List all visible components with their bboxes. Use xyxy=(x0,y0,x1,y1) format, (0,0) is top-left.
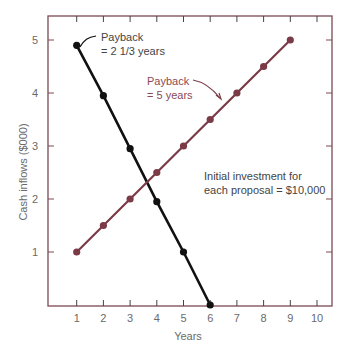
y-tick-label: 3 xyxy=(32,140,38,152)
data-point-red xyxy=(287,36,294,43)
annotation-arrow-black xyxy=(80,36,96,47)
annotation-black-line1: Payback xyxy=(101,31,144,43)
y-axis-label: Cash inflows ($000) xyxy=(17,123,29,220)
x-tick-label: 2 xyxy=(100,312,106,324)
data-point-black xyxy=(180,248,187,255)
payback-chart: 12345678910 12345 Years Cash inflows ($0… xyxy=(0,0,343,354)
annotation-red-line1: Payback xyxy=(147,75,190,87)
note-line2: each proposal = $10,000 xyxy=(204,184,325,196)
x-tick-label: 3 xyxy=(127,312,133,324)
data-point-red xyxy=(180,142,187,149)
x-tick-label: 5 xyxy=(180,312,186,324)
data-point-red xyxy=(260,63,267,70)
x-tick-label: 6 xyxy=(207,312,213,324)
x-tick-label: 4 xyxy=(154,312,160,324)
data-point-black xyxy=(153,198,160,205)
data-point-red xyxy=(73,248,80,255)
annotation-red-line2: = 5 years xyxy=(147,89,193,101)
data-point-red xyxy=(207,116,214,123)
x-tick-label: 9 xyxy=(287,312,293,324)
x-axis-label: Years xyxy=(174,330,202,342)
series-line-black xyxy=(77,45,211,305)
x-tick-label: 8 xyxy=(261,312,267,324)
data-point-red xyxy=(127,195,134,202)
note-line1: Initial investment for xyxy=(204,170,302,182)
x-tick-label: 7 xyxy=(234,312,240,324)
x-tick-label: 10 xyxy=(311,312,323,324)
y-tick-label: 5 xyxy=(32,34,38,46)
y-tick-label: 1 xyxy=(32,246,38,258)
data-point-red xyxy=(153,169,160,176)
x-tick-label: 1 xyxy=(74,312,80,324)
y-tick-label: 2 xyxy=(32,193,38,205)
data-point-black xyxy=(207,301,214,308)
y-tick-label: 4 xyxy=(32,87,38,99)
annotation-black-line2: = 2 1/3 years xyxy=(101,45,165,57)
data-point-black xyxy=(127,145,134,152)
data-point-black xyxy=(73,42,80,49)
data-point-black xyxy=(100,92,107,99)
data-point-red xyxy=(100,222,107,229)
data-point-red xyxy=(233,89,240,96)
